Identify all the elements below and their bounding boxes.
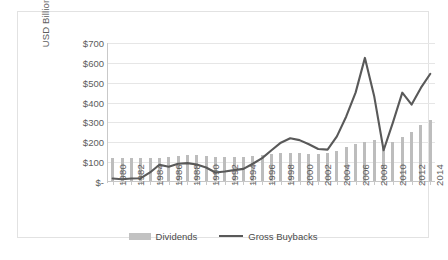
y-tick-label: $400 [50,97,104,108]
y-tick-label: $200 [50,137,104,148]
x-tick-mark [206,182,207,185]
plot-area [108,43,435,182]
x-tick-mark [131,182,132,185]
legend-item-dividends[interactable]: Dividends [129,231,198,242]
x-tick-label: 2006 [360,164,371,186]
x-tick-mark [412,182,413,185]
x-tick-mark [430,182,431,185]
x-tick-mark [393,182,394,185]
y-tick-label: $700 [50,38,104,49]
x-tick-label: 2004 [341,164,352,186]
x-tick-label: 1996 [266,164,277,186]
x-tick-label: 2010 [397,164,408,186]
x-tick-label: 1990 [210,164,221,186]
x-tick-mark [300,182,301,185]
chart-legend: Dividends Gross Buybacks [18,228,428,244]
x-tick-mark [225,182,226,185]
y-tick-label: $600 [50,57,104,68]
x-tick-label: 2000 [304,164,315,186]
x-tick-mark [337,182,338,185]
x-tick-label: 1984 [154,164,165,186]
chart-frame: USD Billions $700$600$500$400$300$200$10… [17,11,429,238]
x-tick-label: 1992 [229,164,240,186]
x-tick-label: 1988 [191,164,202,186]
y-axis-tick-labels: $700$600$500$400$300$200$100$- [46,43,104,182]
x-tick-label: 1986 [173,164,184,186]
x-axis-tick-labels: 1980198219841986198819901992199419961998… [108,184,435,228]
line-series-gross-buybacks [108,43,435,182]
x-tick-label: 1982 [135,164,146,186]
x-tick-mark [262,182,263,185]
x-tick-mark [356,182,357,185]
x-tick-label: 2014 [434,164,445,186]
x-tick-mark [243,182,244,185]
x-tick-mark [187,182,188,185]
x-tick-mark [318,182,319,185]
y-tick-label: $300 [50,117,104,128]
gross-buybacks-polyline [113,58,431,179]
y-tick-label: $500 [50,77,104,88]
x-tick-mark [150,182,151,185]
legend-label-dividends: Dividends [156,231,198,242]
legend-item-gross-buybacks[interactable]: Gross Buybacks [219,231,317,242]
x-tick-mark [113,182,114,185]
legend-label-gross-buybacks: Gross Buybacks [248,231,317,242]
x-tick-mark [374,182,375,185]
x-tick-label: 1994 [247,164,258,186]
legend-swatch-bar-icon [129,233,151,240]
y-tick-label: $100 [50,157,104,168]
x-tick-label: 1998 [285,164,296,186]
x-tick-mark [281,182,282,185]
x-tick-label: 2012 [416,164,427,186]
legend-swatch-line-icon [219,235,243,238]
y-tick-label: $- [50,177,104,188]
x-tick-label: 2008 [378,164,389,186]
x-tick-label: 1980 [117,164,128,186]
x-tick-mark [169,182,170,185]
x-tick-label: 2002 [322,164,333,186]
